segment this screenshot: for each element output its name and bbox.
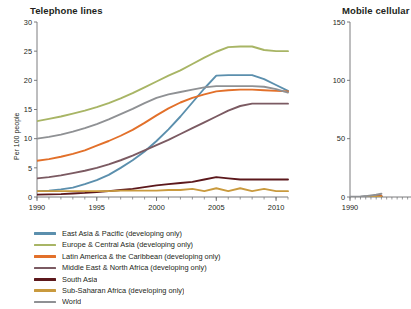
line-chart-left: 05101520253019901995200020052010: [0, 0, 300, 225]
plot-area-left: 05101520253019901995200020052010: [0, 0, 300, 225]
legend-item-label: Europe & Central Asia (developing only): [62, 239, 193, 250]
legend-item[interactable]: Latin America & the Caribbean (developin…: [34, 251, 296, 262]
legend-item-label: Sub-Saharan Africa (developing only): [62, 285, 184, 296]
legend-color-swatch: [34, 255, 56, 258]
legend-color-swatch: [34, 289, 56, 292]
legend-color-swatch: [34, 232, 56, 235]
legend-color-swatch: [34, 301, 56, 304]
legend-item[interactable]: East Asia & Pacific (developing only): [34, 228, 296, 239]
svg-text:0: 0: [28, 193, 32, 202]
svg-text:1990: 1990: [29, 203, 45, 212]
legend-item[interactable]: World: [34, 296, 296, 307]
svg-text:30: 30: [24, 18, 32, 27]
svg-text:5: 5: [28, 164, 32, 173]
svg-text:15: 15: [24, 105, 32, 114]
svg-text:25: 25: [24, 47, 32, 56]
legend-color-swatch: [34, 244, 56, 247]
svg-text:1990: 1990: [342, 203, 358, 212]
legend-item-label: South Asia: [62, 274, 97, 285]
svg-text:50: 50: [337, 134, 345, 143]
legend-item[interactable]: Sub-Saharan Africa (developing only): [34, 285, 296, 296]
svg-text:20: 20: [24, 76, 32, 85]
legend-item-label: World: [62, 296, 81, 307]
svg-text:150: 150: [333, 18, 345, 27]
legend-item-label: Latin America & the Caribbean (developin…: [62, 251, 221, 262]
svg-text:10: 10: [24, 134, 32, 143]
line-chart-right: 0501001501990: [300, 0, 411, 225]
legend-item[interactable]: Middle East & North Africa (developing o…: [34, 262, 296, 273]
svg-text:0: 0: [341, 193, 345, 202]
panel-telephone-lines: Telephone lines Per 100 people 051015202…: [0, 0, 300, 309]
svg-text:100: 100: [333, 76, 345, 85]
svg-text:2010: 2010: [268, 203, 284, 212]
legend-color-swatch: [34, 267, 56, 270]
panel-mobile-cellular: Mobile cellular Per 100 people 050100150…: [300, 0, 411, 309]
svg-text:1995: 1995: [89, 203, 105, 212]
legend-color-swatch: [34, 278, 56, 281]
svg-text:2005: 2005: [208, 203, 224, 212]
plot-area-right: 0501001501990: [300, 0, 411, 225]
legend-item-label: Middle East & North Africa (developing o…: [62, 262, 207, 273]
legend-item[interactable]: Europe & Central Asia (developing only): [34, 239, 296, 250]
dual-chart-figure: Telephone lines Per 100 people 051015202…: [0, 0, 411, 309]
legend-item[interactable]: South Asia: [34, 274, 296, 285]
svg-text:2000: 2000: [148, 203, 164, 212]
legend-left: East Asia & Pacific (developing only)Eur…: [34, 228, 296, 308]
legend-item-label: East Asia & Pacific (developing only): [62, 228, 182, 239]
